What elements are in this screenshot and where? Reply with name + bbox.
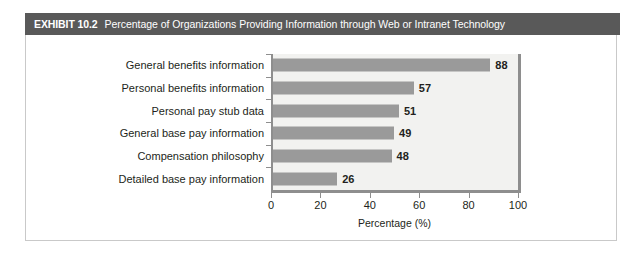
exhibit-number-label: EXHIBIT 10.2 xyxy=(34,18,98,30)
bar-row: Personal pay stub data51 xyxy=(271,99,518,122)
bar xyxy=(273,59,490,72)
bar-value-label: 88 xyxy=(495,59,507,71)
bar xyxy=(273,127,394,140)
x-axis-tick-label: 0 xyxy=(268,199,274,211)
bar xyxy=(273,104,399,117)
bar-row: Detailed base pay information26 xyxy=(271,167,518,190)
y-axis-tick xyxy=(266,122,271,123)
category-label: General benefits information xyxy=(126,59,264,71)
bar xyxy=(273,81,414,94)
y-axis-tick xyxy=(266,145,271,146)
bar xyxy=(273,172,337,185)
category-label: Personal pay stub data xyxy=(151,105,264,117)
bar-row: General base pay information49 xyxy=(271,122,518,145)
x-axis-line xyxy=(271,190,521,193)
x-axis-tick-label: 20 xyxy=(314,199,326,211)
bar-row: Personal benefits information57 xyxy=(271,77,518,100)
bar-value-label: 57 xyxy=(419,82,431,94)
exhibit-title: Percentage of Organizations Providing In… xyxy=(105,18,506,30)
x-axis-tick xyxy=(320,193,321,198)
x-axis-tick-label: 60 xyxy=(413,199,425,211)
bar-row: Compensation philosophy48 xyxy=(271,145,518,168)
exhibit-header: EXHIBIT 10.2 Percentage of Organizations… xyxy=(25,13,620,35)
x-axis-tick xyxy=(469,193,470,198)
x-axis-tick-label: 100 xyxy=(509,199,527,211)
x-axis-tick xyxy=(518,193,519,198)
category-label: General base pay information xyxy=(120,127,264,139)
bar-chart: General benefits information88Personal b… xyxy=(26,36,616,240)
bar xyxy=(273,149,392,162)
exhibit-figure: EXHIBIT 10.2 Percentage of Organizations… xyxy=(25,13,617,241)
y-axis-tick xyxy=(266,77,271,78)
x-axis-tick-label: 80 xyxy=(462,199,474,211)
x-axis-tick-label: 40 xyxy=(364,199,376,211)
bar-row: General benefits information88 xyxy=(271,54,518,77)
y-axis-tick xyxy=(266,99,271,100)
y-axis-tick xyxy=(266,54,271,55)
x-axis-title: Percentage (%) xyxy=(271,217,518,229)
bar-value-label: 51 xyxy=(404,105,416,117)
bar-value-label: 49 xyxy=(399,127,411,139)
x-axis-tick xyxy=(370,193,371,198)
x-axis-tick xyxy=(271,193,272,198)
y-axis-tick xyxy=(266,167,271,168)
x-axis-tick xyxy=(419,193,420,198)
bar-value-label: 26 xyxy=(342,173,354,185)
bar-value-label: 48 xyxy=(397,150,409,162)
category-label: Personal benefits information xyxy=(122,82,264,94)
category-label: Compensation philosophy xyxy=(137,150,264,162)
category-label: Detailed base pay information xyxy=(118,173,264,185)
